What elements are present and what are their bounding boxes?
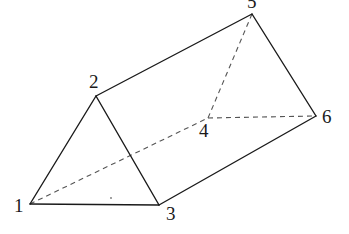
- vertex-label-5: 5: [247, 0, 257, 12]
- hidden-edge-4-5: [208, 14, 252, 118]
- solid-edge-3-6: [159, 116, 316, 205]
- vertex-label-6: 6: [322, 106, 332, 127]
- solid-edge-1-3: [30, 204, 159, 205]
- vertex-label-2: 2: [89, 71, 99, 92]
- vertex-label-4: 4: [199, 120, 209, 141]
- solid-edge-5-6: [252, 14, 316, 116]
- prism-diagram: 1 2 3 4 5 6: [0, 0, 349, 234]
- hidden-edges: [30, 14, 316, 204]
- vertex-label-3: 3: [166, 203, 176, 224]
- small-dot-mark: [110, 197, 112, 199]
- vertex-label-1: 1: [14, 195, 24, 216]
- solid-edge-2-3: [96, 96, 159, 205]
- hidden-edge-4-6: [208, 116, 316, 118]
- vertex-labels: 1 2 3 4 5 6: [14, 0, 332, 224]
- solid-edge-2-5: [96, 14, 252, 96]
- solid-edges: [30, 14, 316, 205]
